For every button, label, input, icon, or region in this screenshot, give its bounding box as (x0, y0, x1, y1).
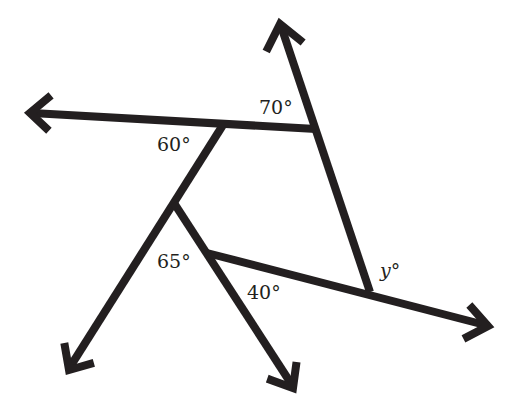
angle-label-70: 70° (259, 96, 293, 118)
angle-label-y: y° (379, 259, 400, 281)
angle-diagram: 70° 60° 65° 40° y° (0, 0, 512, 419)
angle-label-40: 40° (247, 281, 281, 303)
angle-label-60: 60° (157, 133, 191, 155)
degree-symbol: ° (391, 259, 401, 281)
angle-variable-y: y (379, 259, 391, 281)
top-ray (268, 24, 370, 292)
angle-label-65: 65° (157, 250, 191, 272)
